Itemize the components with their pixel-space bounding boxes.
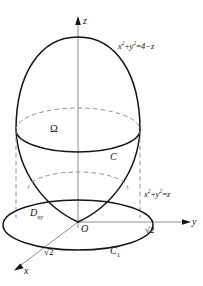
solid-region-label: Ω	[50, 119, 58, 135]
upper-surface-equation-label: x2+y2=4−z	[118, 41, 154, 50]
y-axis-tick-label: √2	[145, 226, 154, 235]
intersection-curve-label: C	[110, 152, 117, 162]
base-curve-sub-text: 1	[117, 251, 120, 258]
base-region-sub-text: xy	[37, 213, 43, 220]
y-axis-label: y	[192, 217, 196, 227]
figure-canvas: z y x O Ω C Dxy C1 x2+y2=4−z x2+y2=z √2 …	[0, 0, 203, 286]
upper-eq-rhs: 4−z	[141, 41, 154, 51]
origin-label: O	[81, 224, 88, 234]
x-axis-tick-label: √2	[44, 248, 53, 257]
z-axis-arrowhead	[75, 16, 81, 25]
diagram-svg	[0, 0, 203, 286]
base-curve-main-text: C	[110, 245, 117, 256]
lower-surface-equation-label: x2+y2=z	[144, 189, 170, 198]
lower-eq-rhs: z	[167, 189, 170, 199]
omega-glyph: Ω	[50, 123, 58, 134]
y-axis-arrowhead	[182, 219, 191, 224]
axis-group	[14, 16, 191, 271]
base-curve-label: C1	[110, 246, 120, 259]
base-region-label: Dxy	[30, 208, 43, 221]
z-axis-label: z	[83, 16, 87, 26]
x-axis-label: x	[24, 266, 28, 276]
